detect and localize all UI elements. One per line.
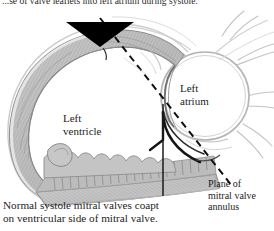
illustration-canvas: ...se of valve leaflets into left atrium…	[0, 0, 274, 231]
label-left-atrium: Left atrium	[180, 82, 209, 108]
top-partial-caption: ...se of valve leaflets into left atrium…	[2, 0, 198, 7]
figure-caption: Normal systole mitral valves coapt on ve…	[3, 199, 159, 225]
label-plane-of-mitral-valve-annulus: Plane of mitral valve annulus	[208, 178, 256, 213]
label-left-ventricle: Left ventricle	[63, 112, 101, 138]
